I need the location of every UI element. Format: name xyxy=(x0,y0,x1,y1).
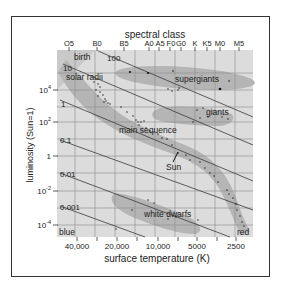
y-tick-1: 1 xyxy=(47,152,52,161)
spectral-K5: K5 xyxy=(202,39,211,48)
spectral-M5: M5 xyxy=(234,39,244,48)
spectral-class-labels: O5 B0 B5 A0 A5 F0 G0 K K5 M0 M5 xyxy=(64,39,244,48)
spectral-O5: O5 xyxy=(64,39,74,48)
radius-label-0.001: 0.001 xyxy=(60,203,81,212)
spectral-B0: B0 xyxy=(92,39,101,48)
x-axis-title: surface temperature (K) xyxy=(104,253,210,264)
x-tick-40000: 40,000 xyxy=(65,242,90,251)
giants-label: giants xyxy=(206,107,229,117)
spectral-A0: A0 xyxy=(144,39,153,48)
spectral-F0: F0 xyxy=(167,39,176,48)
y-tick-1e-4: 10-4 xyxy=(37,219,51,230)
main-sequence-label: main sequence xyxy=(119,125,177,135)
blue-label: blue xyxy=(59,227,75,237)
x-tick-2500: 2500 xyxy=(227,242,245,251)
spectral-M0: M0 xyxy=(215,39,225,48)
white-dwarfs-label: white dwarfs xyxy=(143,209,191,219)
radius-label-0.1: 0.1 xyxy=(60,136,72,145)
sun-label: Sun xyxy=(166,162,181,172)
x-tick-5000: 5000 xyxy=(188,242,206,251)
y-tick-1e2: 102 xyxy=(39,116,51,127)
hr-diagram: spectral class surface temperature (K) l… xyxy=(0,0,284,286)
spectral-G0: G0 xyxy=(176,39,186,48)
x-tick-10000: 10,000 xyxy=(146,242,171,251)
bottom-ticks xyxy=(77,237,236,241)
y-axis-title: luminosity (Sun=1) xyxy=(25,108,35,183)
y-tick-1e-2: 10-2 xyxy=(37,185,51,196)
x-tick-labels: 40,000 20,000 10,000 5000 2500 xyxy=(65,242,246,251)
spectral-A5: A5 xyxy=(155,39,164,48)
red-label: red xyxy=(237,227,250,237)
radius-label-0.01: 0.01 xyxy=(60,170,76,179)
birth-label: birth xyxy=(74,52,91,62)
radius-label-100: 100 xyxy=(107,54,121,63)
y-tick-1e4: 104 xyxy=(39,84,51,95)
spectral-B5: B5 xyxy=(119,39,128,48)
supergiants-label: supergiants xyxy=(175,74,219,84)
solar-radii-label: solar radii xyxy=(66,72,103,82)
spectral-K: K xyxy=(192,39,197,48)
y-tick-labels: 104 102 1 10-2 10-4 xyxy=(37,84,51,230)
radius-label-1: 1 xyxy=(61,100,66,109)
x-tick-20000: 20,000 xyxy=(105,242,130,251)
